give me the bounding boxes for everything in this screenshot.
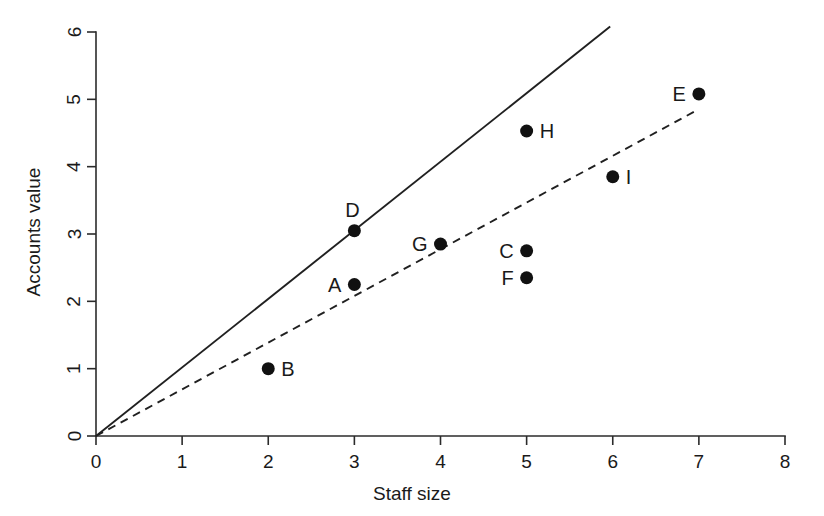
data-point-label-E: E (673, 83, 686, 105)
data-point-C (520, 244, 533, 257)
x-axis-title: Staff size (373, 483, 451, 504)
data-point-E (692, 87, 705, 100)
x-tick-label-2: 2 (263, 451, 274, 472)
plot-canvas: 0123456 012345678 ABCDEFGHI Staff size A… (0, 0, 824, 516)
data-point-label-G: G (412, 233, 428, 255)
data-point-G (434, 238, 447, 251)
y-tick-label-5: 5 (64, 94, 85, 105)
y-tick-label-4: 4 (64, 161, 85, 172)
x-tick-label-8: 8 (780, 451, 791, 472)
y-axis-ticks (87, 32, 96, 436)
x-axis-tick-labels: 012345678 (91, 451, 791, 472)
data-point-I (606, 170, 619, 183)
x-axis-ticks (96, 436, 785, 445)
y-tick-label-0: 0 (64, 431, 85, 442)
data-point-label-A: A (328, 274, 342, 296)
y-tick-label-3: 3 (64, 229, 85, 240)
x-tick-label-0: 0 (91, 451, 102, 472)
x-tick-label-7: 7 (694, 451, 705, 472)
data-point-label-H: H (540, 120, 554, 142)
data-point-label-I: I (626, 166, 632, 188)
data-point-B (262, 362, 275, 375)
y-axis-title: Accounts value (23, 168, 44, 297)
data-point-H (520, 124, 533, 137)
data-point-D (348, 224, 361, 237)
data-point-label-F: F (501, 267, 513, 289)
data-point-label-C: C (499, 240, 513, 262)
data-point-A (348, 278, 361, 291)
x-tick-label-5: 5 (521, 451, 532, 472)
scatter-chart: 0123456 012345678 ABCDEFGHI Staff size A… (0, 0, 824, 516)
dashed-reference-line (96, 110, 697, 436)
y-axis: 0123456 (64, 27, 97, 442)
data-point-label-D: D (345, 199, 359, 221)
y-tick-label-6: 6 (64, 27, 85, 38)
x-tick-label-4: 4 (435, 451, 446, 472)
x-axis: 012345678 (91, 436, 791, 472)
y-axis-tick-labels: 0123456 (64, 27, 85, 442)
y-tick-label-1: 1 (64, 363, 85, 374)
data-point-label-B: B (281, 358, 294, 380)
reference-lines (96, 27, 697, 436)
x-tick-label-6: 6 (607, 451, 618, 472)
y-tick-label-2: 2 (64, 296, 85, 307)
x-tick-label-1: 1 (177, 451, 188, 472)
x-tick-label-3: 3 (349, 451, 360, 472)
data-point-F (520, 271, 533, 284)
